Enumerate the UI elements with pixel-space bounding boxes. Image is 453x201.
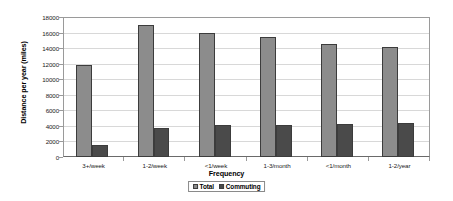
y-axis-tick-label: 2000 bbox=[19, 138, 59, 145]
bar-total-4 bbox=[321, 44, 337, 157]
x-axis-tick-label: 1-2/week bbox=[124, 162, 185, 169]
x-axis-tick-cell bbox=[124, 157, 185, 161]
x-axis-tick-label: <1/week bbox=[185, 162, 246, 169]
legend-entry: Commuting bbox=[219, 183, 261, 190]
bar-group bbox=[308, 17, 369, 157]
y-axis-tick-label: 6000 bbox=[19, 107, 59, 114]
legend-swatch-icon bbox=[219, 184, 224, 189]
y-axis-tick-label: 10000 bbox=[19, 76, 59, 83]
y-axis-tick-label: 8000 bbox=[19, 91, 59, 98]
bar-group bbox=[63, 17, 124, 157]
bar-commuting-5 bbox=[398, 123, 414, 157]
legend-entry: Total bbox=[193, 183, 214, 190]
y-axis-tick-label: 0 bbox=[19, 154, 59, 161]
bar-total-3 bbox=[260, 37, 276, 157]
x-axis-tick-marks bbox=[63, 157, 430, 161]
y-axis-tick-label: 12000 bbox=[19, 60, 59, 67]
y-axis-tick-label: 4000 bbox=[19, 123, 59, 130]
legend-swatch-icon bbox=[193, 184, 198, 189]
bar-total-2 bbox=[199, 33, 215, 157]
x-axis-tick-cell bbox=[247, 157, 308, 161]
legend-label: Commuting bbox=[226, 183, 261, 190]
bar-total-0 bbox=[76, 65, 92, 157]
y-axis-tick-label: 14000 bbox=[19, 45, 59, 52]
legend-label: Total bbox=[200, 183, 214, 190]
bar-commuting-2 bbox=[215, 125, 231, 157]
x-axis-tick-label: 3+/week bbox=[63, 162, 124, 169]
bar-group bbox=[247, 17, 308, 157]
bar-commuting-1 bbox=[154, 128, 170, 157]
bar-chart: Distance per year (miles) 18000160001400… bbox=[0, 0, 453, 201]
x-axis-tick-cell bbox=[63, 157, 124, 161]
bar-total-5 bbox=[382, 47, 398, 157]
bar-group bbox=[124, 17, 185, 157]
bar-total-1 bbox=[138, 25, 154, 157]
bar-commuting-0 bbox=[92, 145, 108, 157]
bar-commuting-4 bbox=[337, 124, 353, 157]
x-axis-tick-label: <1/month bbox=[308, 162, 369, 169]
x-axis-tick-cell bbox=[185, 157, 246, 161]
bar-group bbox=[369, 17, 430, 157]
chart-legend: TotalCommuting bbox=[188, 181, 266, 192]
y-axis-tick-label: 18000 bbox=[19, 14, 59, 21]
x-axis-tick-cell bbox=[308, 157, 369, 161]
x-axis-tick-label: 1-2/year bbox=[369, 162, 430, 169]
x-axis-tick-label: 1-3/month bbox=[247, 162, 308, 169]
bar-groups bbox=[63, 17, 430, 157]
x-axis-tick-mark bbox=[429, 157, 430, 161]
bar-group bbox=[185, 17, 246, 157]
y-axis-tick-label: 16000 bbox=[19, 29, 59, 36]
bar-commuting-3 bbox=[276, 125, 292, 157]
x-axis-title: Frequency bbox=[0, 169, 453, 178]
x-axis-labels: 3+/week1-2/week<1/week1-3/month<1/month1… bbox=[63, 162, 430, 169]
x-axis-tick-cell bbox=[369, 157, 430, 161]
